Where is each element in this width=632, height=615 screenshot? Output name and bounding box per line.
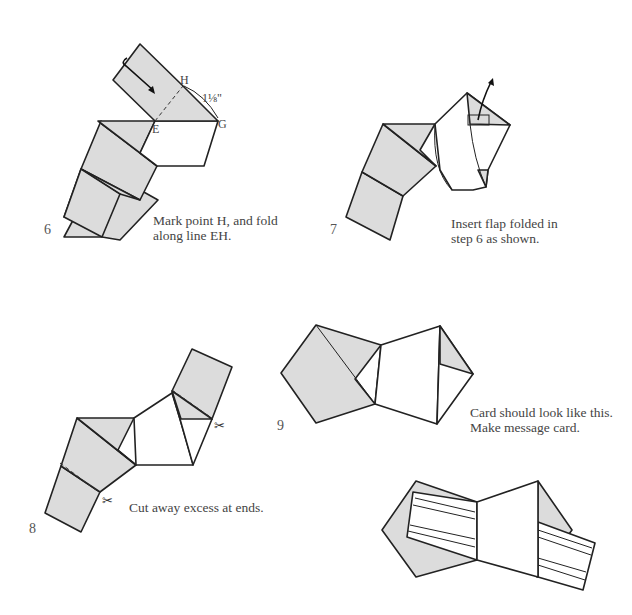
message-card-figure bbox=[382, 481, 595, 590]
step-8-caption: Cut away excess at ends. bbox=[129, 500, 264, 515]
caption-line: Card should look like this. bbox=[470, 405, 613, 420]
caption-line: step 6 as shown. bbox=[451, 231, 558, 246]
step-number: 7 bbox=[330, 222, 337, 238]
caption-line: along line EH. bbox=[153, 228, 278, 243]
step-7-caption: Insert flap folded in step 6 as shown. bbox=[451, 216, 558, 246]
caption-line: Make message card. bbox=[470, 420, 613, 435]
step-6-caption: Mark point H, and fold along line EH. bbox=[153, 213, 278, 243]
caption-line: Insert flap folded in bbox=[451, 216, 558, 231]
step-number: 8 bbox=[29, 521, 36, 537]
instruction-diagram: H E G 1⅛" ✂ ✂ bbox=[0, 0, 632, 615]
step-9-figure bbox=[281, 325, 473, 424]
label-G: G bbox=[218, 117, 227, 131]
step-number: 9 bbox=[277, 418, 284, 434]
step-9-caption: Card should look like this. Make message… bbox=[470, 405, 613, 435]
step-6-figure: H E G 1⅛" bbox=[64, 44, 227, 240]
scissors-icon: ✂ bbox=[214, 418, 225, 433]
label-E: E bbox=[152, 122, 159, 136]
step-number: 6 bbox=[44, 222, 51, 238]
caption-line: Mark point H, and fold bbox=[153, 213, 278, 228]
scissors-icon: ✂ bbox=[102, 493, 113, 508]
caption-line: Cut away excess at ends. bbox=[129, 500, 264, 515]
label-H: H bbox=[180, 73, 189, 87]
measure-label: 1⅛" bbox=[202, 91, 222, 105]
